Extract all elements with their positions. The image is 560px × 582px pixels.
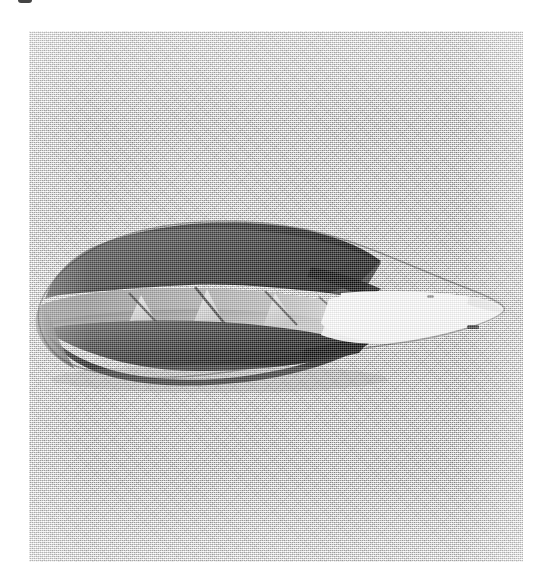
figure-page: [0, 0, 560, 582]
clipped-caption-glyph: [18, 0, 32, 3]
ground-shadow: [51, 365, 387, 393]
rendered-3d-model: [29, 31, 523, 562]
render-panel: [29, 31, 523, 562]
scan-speck-tip-upper: [427, 295, 434, 298]
